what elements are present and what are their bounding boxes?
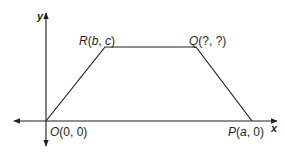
trapezoid-outline xyxy=(46,47,252,121)
point-q-label: Q(?, ?) xyxy=(189,34,226,48)
y-axis-label: y xyxy=(36,10,44,22)
trapezoid-diagram: y x R(b, c) Q(?, ?) O(0, 0) P(a, 0) xyxy=(0,0,285,160)
point-r-label: R(b, c) xyxy=(79,34,115,48)
point-o-label: O(0, 0) xyxy=(50,125,87,139)
x-axis-label: x xyxy=(270,122,278,134)
point-p-label: P(a, 0) xyxy=(228,125,264,139)
